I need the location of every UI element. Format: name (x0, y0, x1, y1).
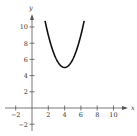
x-tick-label: −2 (11, 111, 21, 119)
y-tick-label: 4 (24, 72, 28, 80)
x-tick-label: 2 (46, 111, 50, 119)
chart: x y −2246810 −2246810 (0, 0, 137, 136)
x-axis-arrow-icon (122, 106, 128, 110)
y-tick-label: 2 (24, 88, 28, 96)
x-tick-label: 10 (109, 111, 117, 119)
y-tick-label: 6 (24, 56, 28, 64)
y-tick-label: 8 (24, 40, 28, 48)
x-tick-label: 8 (95, 111, 99, 119)
y-tick-label: 10 (20, 23, 28, 31)
x-ticks: −2246810 (11, 106, 118, 120)
y-axis: y (28, 4, 34, 131)
y-axis-arrow-icon (30, 14, 34, 20)
x-axis-label: x (131, 104, 135, 112)
x-tick-label: 6 (79, 111, 83, 119)
parabola-curve (45, 21, 84, 68)
y-axis-label: y (28, 4, 33, 12)
y-tick-label: −2 (18, 121, 28, 129)
x-tick-label: 4 (63, 111, 67, 119)
